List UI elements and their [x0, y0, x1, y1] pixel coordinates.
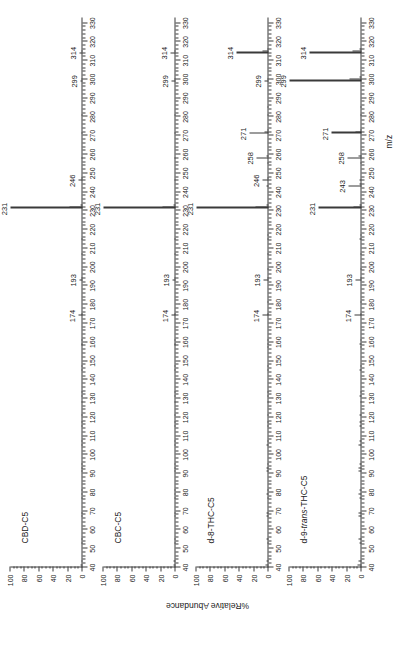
- x-tick: [175, 307, 178, 308]
- x-tick-label: 310: [367, 54, 374, 66]
- x-tick: [361, 172, 366, 173]
- x-tick: [82, 416, 87, 417]
- spectrum-peak: [359, 238, 361, 239]
- x-tick: [82, 82, 85, 83]
- spectrum-peak: [174, 369, 175, 370]
- x-tick: [82, 104, 85, 105]
- x-tick: [175, 360, 180, 361]
- x-tick: [361, 266, 366, 267]
- x-tick-label: 160: [274, 336, 281, 348]
- x-tick: [268, 435, 273, 436]
- x-tick-label: 210: [274, 242, 281, 254]
- x-tick: [175, 29, 178, 30]
- x-tick: [82, 112, 85, 113]
- x-tick: [82, 232, 85, 233]
- x-tick: [175, 513, 178, 514]
- x-tick: [361, 360, 366, 361]
- x-tick-label: 50: [367, 544, 374, 552]
- x-tick: [175, 495, 178, 496]
- x-tick: [268, 468, 271, 469]
- x-tick: [175, 386, 178, 387]
- x-tick-label: 270: [181, 129, 188, 141]
- x-tick-label: 240: [181, 186, 188, 198]
- spectrum-peak: [267, 234, 268, 235]
- spectrum-peak: [81, 467, 82, 468]
- spectrum-peak: [81, 177, 82, 178]
- x-tick: [175, 70, 178, 71]
- x-tick: [268, 431, 271, 432]
- x-tick: [268, 555, 271, 556]
- x-tick-label: 160: [367, 336, 374, 348]
- peak-label: 314: [160, 46, 168, 59]
- x-tick: [82, 40, 87, 41]
- x-tick: [175, 288, 178, 289]
- x-tick: [82, 521, 85, 522]
- x-tick: [361, 367, 364, 368]
- x-tick: [175, 59, 180, 60]
- x-tick: [361, 112, 364, 113]
- spectrum-peak: [174, 493, 175, 494]
- x-tick: [82, 457, 85, 458]
- x-tick: [268, 551, 271, 552]
- y-tick-label: 0: [358, 574, 365, 578]
- x-tick: [361, 435, 366, 436]
- x-tick: [175, 221, 178, 222]
- x-tick: [361, 134, 366, 135]
- peak-label: 258: [337, 152, 345, 165]
- y-tick-label: 40: [143, 574, 150, 582]
- spectrum-peak: [360, 313, 361, 314]
- x-tick: [175, 243, 178, 244]
- spectrum-peak: [78, 314, 82, 315]
- x-tick: [82, 161, 85, 162]
- x-tick-label: 240: [88, 186, 95, 198]
- x-tick: [82, 412, 85, 413]
- x-tick: [361, 59, 366, 60]
- spectrum-peak: [267, 129, 268, 130]
- x-tick: [268, 502, 271, 503]
- spectrum-peak: [174, 444, 175, 445]
- x-tick: [82, 142, 85, 143]
- spectrum-peak: [174, 179, 175, 180]
- x-tick: [82, 29, 85, 30]
- x-tick: [268, 397, 273, 398]
- y-tick-label: 100: [193, 574, 200, 586]
- x-tick: [82, 551, 85, 552]
- x-tick: [175, 438, 178, 439]
- x-tick: [82, 525, 85, 526]
- mass-spectra-figure: CBD-C5 020406080100 40506070809010011012…: [0, 0, 414, 653]
- peak-label: 193: [253, 274, 261, 287]
- plot-area-0: 4050607080901001101201301401501601701801…: [10, 17, 82, 567]
- x-tick: [361, 390, 364, 391]
- x-tick: [175, 168, 178, 169]
- x-tick: [361, 74, 364, 75]
- spectrum-peak: [171, 80, 175, 81]
- x-tick: [175, 239, 178, 240]
- x-tick: [175, 202, 178, 203]
- spectrum-peak: [266, 155, 268, 156]
- x-tick: [82, 367, 85, 368]
- spectrum-peak: [81, 132, 82, 133]
- spectrum-peak: [267, 301, 268, 302]
- x-tick: [268, 82, 271, 83]
- x-tick: [268, 345, 271, 346]
- x-tick: [268, 363, 271, 364]
- x-tick: [175, 450, 178, 451]
- spectrum-peak: [360, 346, 361, 347]
- x-tick: [268, 37, 271, 38]
- x-tick: [82, 288, 85, 289]
- spectrum-peak: [174, 253, 175, 254]
- spectrum-peak: [262, 50, 268, 51]
- spectrum-peak: [267, 268, 268, 269]
- peak-label: 314: [226, 46, 234, 59]
- x-tick-label: 250: [367, 167, 374, 179]
- x-tick: [361, 378, 366, 379]
- x-tick: [361, 153, 366, 154]
- x-tick: [361, 164, 364, 165]
- x-tick: [361, 326, 364, 327]
- x-tick: [268, 375, 271, 376]
- x-tick-label: 250: [274, 167, 281, 179]
- x-tick: [268, 390, 271, 391]
- x-tick: [268, 405, 271, 406]
- x-tick: [361, 543, 364, 544]
- x-tick-label: 90: [88, 469, 95, 477]
